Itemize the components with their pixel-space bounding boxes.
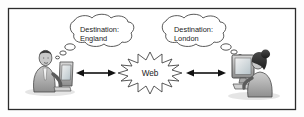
left-monitor-screen [61,65,71,80]
right-monitor-screen [235,58,251,75]
thought-bubble-left-line1: Destination: [80,25,119,34]
thought-bubble-right-line1: Destination: [174,25,213,34]
right-actor-hair-bun [261,50,270,59]
left-keyboard [54,87,71,91]
thought-bubble-left-line2: England [80,34,107,43]
figure-canvas: Destination: England Destination: London [0,0,304,117]
thought-bubble-right-line2: London [174,34,199,43]
web-communication-figure: Destination: England Destination: London [0,0,304,117]
web-label: Web [142,69,159,78]
